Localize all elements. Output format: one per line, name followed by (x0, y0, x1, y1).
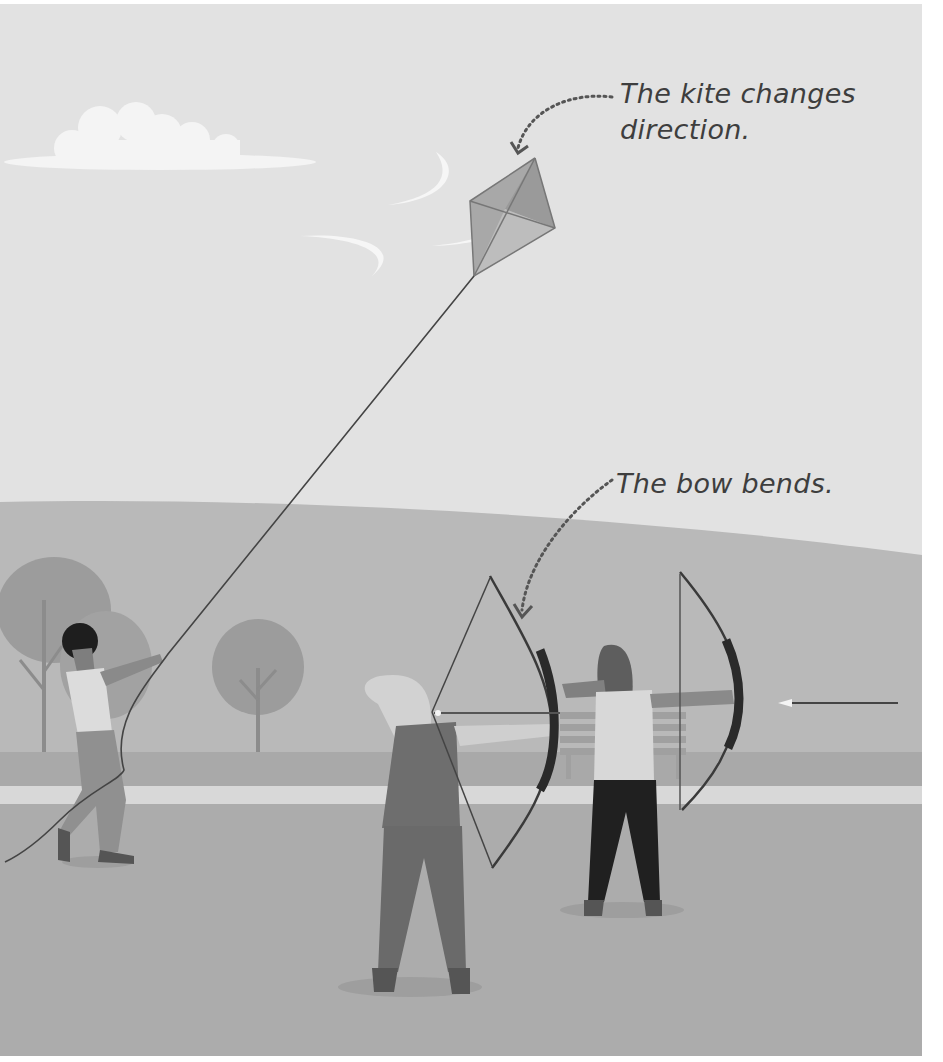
kite-caption-line2: direction. (620, 112, 856, 148)
bow-caption: The bow bends. (616, 466, 834, 502)
kite-caption: The kite changes direction. (620, 76, 856, 148)
park-illustration (0, 0, 943, 1062)
kite-caption-line1: The kite changes (620, 78, 856, 109)
path (0, 786, 922, 804)
grass-band (0, 752, 922, 786)
